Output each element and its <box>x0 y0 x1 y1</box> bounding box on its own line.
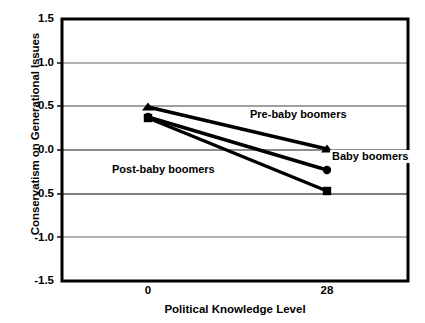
chart-figure: Conservatism on Generational Issues 1.5 … <box>0 0 425 323</box>
annotation-baby-boomers: Baby boomers <box>330 150 410 163</box>
annotation-pre-baby-boomers: Pre-baby boomers <box>248 108 349 121</box>
annotation-post-baby-boomers: Post-baby boomers <box>110 163 217 176</box>
